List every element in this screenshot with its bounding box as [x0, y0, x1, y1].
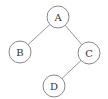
- nodes-layer: A B C D: [9, 6, 100, 97]
- node-label: A: [53, 12, 62, 23]
- node-label: C: [85, 48, 93, 59]
- tree-node-d: D: [43, 75, 65, 97]
- tree-node-c: C: [78, 42, 100, 64]
- edge-a-c: [65, 25, 82, 44]
- tree-node-a: A: [47, 6, 69, 28]
- tree-node-b: B: [9, 41, 31, 63]
- edge-a-b: [28, 24, 50, 44]
- node-label: D: [50, 81, 58, 92]
- node-label: B: [16, 47, 23, 58]
- tree-diagram: A B C D: [0, 0, 108, 99]
- edge-c-d: [62, 61, 81, 79]
- edges-layer: [28, 24, 82, 78]
